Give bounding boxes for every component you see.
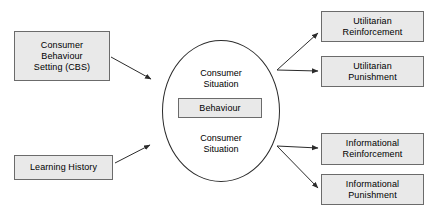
consumer-situation-bottom-label: Consumer Situation [162, 133, 280, 155]
edge-situation-to-utilitarian-reinforcement [277, 33, 318, 70]
bpm-diagram: Consumer Behaviour Setting (CBS) Learnin… [0, 0, 434, 215]
behaviour-label: Behaviour [199, 103, 240, 114]
utilitarian-punishment-line-1: Utilitarian [353, 61, 392, 72]
informational-reinforcement-line-1: Informational [346, 138, 399, 149]
consumer-behaviour-setting-box: Consumer Behaviour Setting (CBS) [14, 31, 110, 81]
learning-history-box: Learning History [14, 155, 113, 180]
cbs-line-2: Behaviour [41, 51, 82, 62]
consumer-situation-bottom-line-1: Consumer [162, 133, 280, 144]
utilitarian-punishment-line-2: Punishment [348, 72, 397, 83]
informational-punishment-box: Informational Punishment [321, 174, 424, 205]
consumer-situation-top-label: Consumer Situation [162, 68, 280, 90]
consumer-situation-top-line-1: Consumer [162, 68, 280, 79]
utilitarian-reinforcement-line-1: Utilitarian [353, 16, 392, 27]
utilitarian-reinforcement-box: Utilitarian Reinforcement [321, 11, 424, 42]
informational-punishment-line-1: Informational [346, 179, 399, 190]
edge-situation-to-informational-punishment [277, 146, 318, 188]
cbs-line-3: Setting (CBS) [34, 62, 90, 73]
behaviour-box: Behaviour [178, 98, 262, 118]
cbs-line-1: Consumer [41, 40, 83, 51]
utilitarian-reinforcement-line-2: Reinforcement [343, 27, 403, 38]
edge-learning-history-to-situation [115, 145, 150, 163]
learning-history-label: Learning History [30, 162, 97, 173]
informational-reinforcement-line-2: Reinforcement [343, 149, 403, 160]
edge-cbs-to-situation [111, 57, 151, 79]
consumer-situation-top-line-2: Situation [162, 79, 280, 90]
informational-punishment-line-2: Punishment [348, 190, 397, 201]
consumer-situation-bottom-line-2: Situation [162, 144, 280, 155]
utilitarian-punishment-box: Utilitarian Punishment [321, 56, 424, 87]
informational-reinforcement-box: Informational Reinforcement [321, 133, 424, 165]
edge-situation-to-informational-reinforcement [277, 146, 318, 148]
edge-situation-to-utilitarian-punishment [277, 70, 318, 71]
